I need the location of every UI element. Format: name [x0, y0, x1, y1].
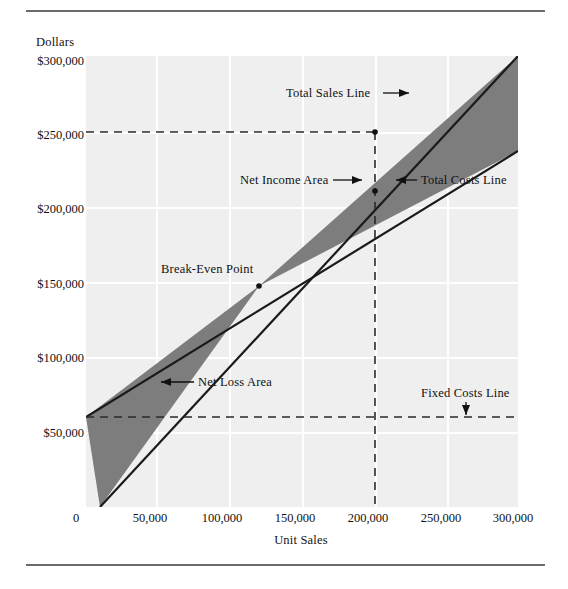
- x-axis-title: Unit Sales: [240, 533, 328, 548]
- x-tick-label-50000: 50,000: [133, 511, 167, 526]
- total-sales-line-label: Total Sales Line: [286, 86, 370, 101]
- break-even-point-marker: [256, 283, 262, 289]
- y-tick-label-100000: $100,000: [0, 351, 84, 366]
- total-costs-line-shape: [86, 151, 518, 417]
- sales-at-200000-marker: [372, 129, 378, 135]
- figure-top-rule: [26, 10, 545, 12]
- total-sales-line-shape: [100, 56, 518, 507]
- break-even-chart-figure: Dollars $300,000 $250,000 $200,000 $150,…: [0, 0, 568, 589]
- net-income-area-label: Net Income Area: [240, 173, 328, 188]
- x-tick-label-150000: 150,000: [275, 511, 316, 526]
- break-even-point-label: Break-Even Point: [161, 262, 253, 277]
- x-tick-label-100000: 100,000: [202, 511, 243, 526]
- total-costs-line-label: Total Costs Line: [421, 173, 507, 188]
- y-tick-label-250000: $250,000: [0, 128, 84, 143]
- x-tick-label-300000: 300,000: [493, 511, 534, 526]
- net-loss-area-shape: [86, 286, 259, 507]
- plot-area: [86, 56, 518, 507]
- x-tick-label-0: 0: [73, 511, 79, 526]
- fixed-costs-line-label: Fixed Costs Line: [421, 386, 510, 401]
- y-axis-tick-labels: $300,000 $250,000 $200,000 $150,000 $100…: [0, 0, 84, 589]
- x-tick-label-200000: 200,000: [348, 511, 389, 526]
- figure-bottom-rule: [26, 564, 545, 566]
- y-tick-label-300000: $300,000: [0, 54, 84, 69]
- y-tick-label-150000: $150,000: [0, 277, 84, 292]
- costs-at-200000-marker: [372, 188, 378, 194]
- plot-graphics: [86, 56, 518, 507]
- x-tick-label-250000: 250,000: [421, 511, 462, 526]
- y-tick-label-200000: $200,000: [0, 202, 84, 217]
- y-tick-label-50000: $50,000: [0, 426, 84, 441]
- x-axis-title-wrap: Unit Sales: [0, 533, 568, 548]
- net-loss-area-label: Net Loss Area: [198, 375, 272, 390]
